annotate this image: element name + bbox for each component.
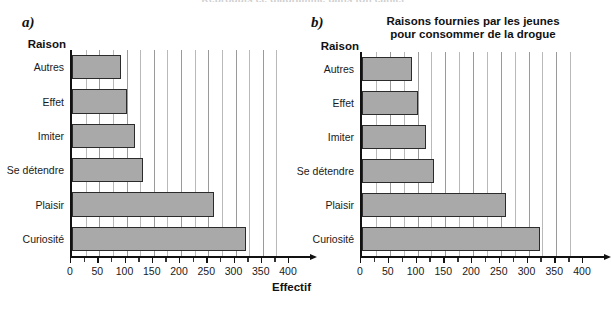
x-tick-minor [568, 258, 569, 262]
x-tick-minor [274, 258, 275, 262]
gridline [276, 50, 277, 256]
x-tick-minor [220, 258, 221, 262]
category-label: Curiosité [2, 233, 64, 245]
plot-area-a [70, 50, 288, 256]
x-tick-major [388, 258, 389, 263]
x-tick-label: 400 [573, 265, 591, 277]
category-label: Plaisir [292, 199, 354, 211]
gridline [167, 50, 168, 256]
x-tick-minor [374, 258, 375, 262]
bar-se-détendre [72, 158, 143, 182]
bar-plaisir [72, 192, 214, 216]
gridline [113, 50, 114, 256]
x-tick-label: 300 [225, 265, 243, 277]
x-tick-label: 100 [407, 265, 425, 277]
x-tick-major [360, 258, 361, 263]
x-tick-label: 50 [91, 265, 103, 277]
x-tick-major [527, 258, 528, 263]
gridline [181, 50, 182, 256]
category-label: Imiter [292, 131, 354, 143]
gridline [487, 52, 488, 256]
gridline [99, 50, 100, 256]
x-tick-label: 200 [170, 265, 188, 277]
gridline [236, 50, 237, 256]
x-tick-minor [540, 258, 541, 262]
x-tick-major [234, 258, 235, 263]
gridline [515, 52, 516, 256]
gridline [390, 52, 391, 256]
bar-imiter [72, 124, 135, 148]
bar-autres [362, 57, 412, 81]
x-tick-minor [429, 258, 430, 262]
chart-panel-a: a) Raison AutresEffetImiterSe détendrePl… [0, 0, 303, 310]
x-tick-major [70, 258, 71, 263]
x-tick-label: 0 [67, 265, 73, 277]
bar-effet [72, 89, 127, 113]
category-label: Se détendre [2, 164, 64, 176]
gridline [154, 50, 155, 256]
chart-title-b-line1: Raisons fournies par les jeunes [353, 15, 593, 28]
gridline [445, 52, 446, 256]
category-label: Autres [292, 63, 354, 75]
plot-inner-a [72, 50, 288, 256]
x-tick-minor [247, 258, 248, 262]
x-tick-label: 150 [434, 265, 452, 277]
x-tick-major [152, 258, 153, 263]
x-tick-label: 300 [518, 265, 536, 277]
category-label: Curiosité [292, 233, 354, 245]
x-tick-label: 350 [252, 265, 270, 277]
bar-curiosité [72, 227, 246, 251]
chart-title-b: Raisons fournies par les jeunes pour con… [353, 15, 593, 41]
bar-imiter [362, 125, 426, 149]
gridline [418, 52, 419, 256]
gridline [249, 50, 250, 256]
category-label: Se détendre [292, 165, 354, 177]
gridline [195, 50, 196, 256]
gridline [140, 50, 141, 256]
bar-curiosité [362, 227, 540, 251]
gridline [222, 50, 223, 256]
gridline [570, 52, 571, 256]
category-label: Autres [2, 61, 64, 73]
x-tick-major [261, 258, 262, 263]
gridline [263, 50, 264, 256]
x-tick-major [288, 258, 289, 263]
panel-label-b: b) [311, 14, 324, 31]
gridline [127, 50, 128, 256]
axis-name-raison-b: Raison [293, 40, 359, 52]
gridline [542, 52, 543, 256]
x-tick-label: 150 [143, 265, 161, 277]
x-tick-label: 350 [545, 265, 563, 277]
bar-autres [72, 55, 121, 79]
x-tick-minor [485, 258, 486, 262]
x-tick-minor [457, 258, 458, 262]
x-tick-label: 400 [279, 265, 297, 277]
x-tick-minor [193, 258, 194, 262]
x-tick-major [179, 258, 180, 263]
bar-se-détendre [362, 159, 434, 183]
gridline [556, 52, 557, 256]
plot-inner-b [362, 52, 582, 256]
gridline [376, 52, 377, 256]
bar-effet [362, 91, 418, 115]
x-tick-label: 50 [382, 265, 394, 277]
x-tick-minor [402, 258, 403, 262]
x-tick-major [471, 258, 472, 263]
category-label: Effet [292, 97, 354, 109]
x-tick-major [443, 258, 444, 263]
gridline [473, 52, 474, 256]
x-tick-label: 250 [197, 265, 215, 277]
panel-label-a: a) [22, 14, 35, 31]
gridline [501, 52, 502, 256]
x-tick-minor [165, 258, 166, 262]
x-tick-major [554, 258, 555, 263]
x-tick-major [416, 258, 417, 263]
gridline [459, 52, 460, 256]
gridline [86, 50, 87, 256]
gridline [431, 52, 432, 256]
x-tick-label: 100 [116, 265, 134, 277]
chart-panel-b: b) Raisons fournies par les jeunes pour … [303, 0, 607, 310]
category-label: Imiter [2, 130, 64, 142]
plot-area-b [360, 52, 582, 256]
x-tick-major [499, 258, 500, 263]
